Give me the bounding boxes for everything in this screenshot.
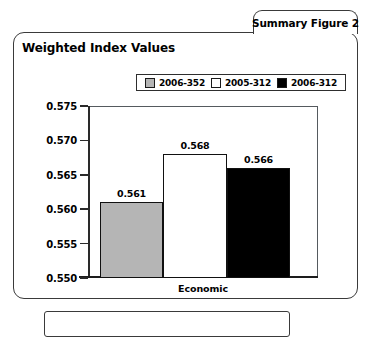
legend-swatch-2005-312 [211,78,221,88]
plot-top-border [88,106,318,107]
y-tick-mark [80,208,88,210]
bar-value-label: 0.566 [244,154,273,165]
y-tick-label: 0.565 [46,169,77,180]
y-tick-label: 0.560 [46,204,77,215]
x-axis-label: Economic [88,283,318,294]
bottom-panel [44,311,290,337]
legend-item-0: 2006-352 [145,78,205,88]
y-tick-label: 0.575 [46,101,77,112]
y-tick-mark [80,277,88,279]
bar-2005-312: 0.568 [163,154,227,278]
legend-label-2006-352: 2006-352 [159,78,205,88]
legend-label-2005-312: 2005-312 [225,78,271,88]
y-axis-line [88,106,90,278]
plot-right-border [317,106,318,278]
plot-area: 0.5750.5700.5650.5600.5550.550 0.5610.56… [88,106,318,278]
bar-2006-312: 0.566 [227,168,291,278]
legend-swatch-2006-352 [145,78,155,88]
chart-legend: 2006-352 2005-312 2006-312 [136,74,346,91]
y-tick-mark [80,140,88,142]
bar-value-label: 0.568 [180,140,209,151]
y-tick-mark [80,243,88,245]
legend-swatch-2006-312 [277,78,287,88]
legend-item-2: 2006-312 [277,78,337,88]
y-tick-mark [80,174,88,176]
y-tick-label: 0.555 [46,238,77,249]
tab-card-seam [255,31,356,34]
bar-2006-352: 0.561 [100,202,164,278]
y-tick-label: 0.550 [46,273,77,284]
bar-value-label: 0.561 [117,188,146,199]
y-tick-label: 0.570 [46,135,77,146]
summary-figure-tab-label: Summary Figure 2 [252,17,359,29]
legend-item-1: 2005-312 [211,78,271,88]
chart-title: Weighted Index Values [22,41,175,55]
legend-label-2006-312: 2006-312 [291,78,337,88]
y-tick-mark [80,105,88,107]
